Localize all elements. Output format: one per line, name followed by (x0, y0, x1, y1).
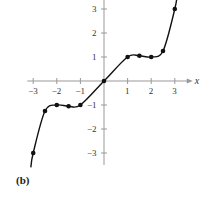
x-tick-label: −2 (52, 86, 62, 96)
data-point (102, 79, 107, 84)
y-tick-label: 3 (92, 4, 97, 14)
x-axis-arrow-icon (187, 79, 193, 84)
x-tick-label: 3 (172, 86, 177, 96)
axes: x−3−2−1123−3−2−1123 (27, 0, 199, 165)
y-tick-label: 1 (92, 52, 97, 62)
y-tick-label: −2 (87, 124, 97, 134)
data-point (137, 54, 142, 59)
x-tick-label: −3 (28, 86, 38, 96)
y-tick-label: −1 (87, 100, 97, 110)
data-point (31, 151, 36, 156)
data-point (78, 103, 83, 108)
x-axis-label: x (194, 75, 200, 86)
panel-label: (b) (16, 174, 29, 186)
data-point (66, 104, 71, 109)
data-point (43, 109, 48, 114)
data-point (149, 55, 154, 60)
data-point (161, 49, 166, 54)
data-point (125, 55, 130, 60)
data-point (55, 103, 60, 108)
x-tick-label: 1 (125, 86, 130, 96)
y-tick-label: 2 (92, 28, 97, 38)
function-plot: x−3−2−1123−3−2−1123 (0, 0, 217, 200)
y-tick-label: −3 (87, 148, 97, 158)
x-tick-label: 2 (149, 86, 154, 96)
data-point (173, 7, 178, 12)
x-tick-label: −1 (75, 86, 85, 96)
